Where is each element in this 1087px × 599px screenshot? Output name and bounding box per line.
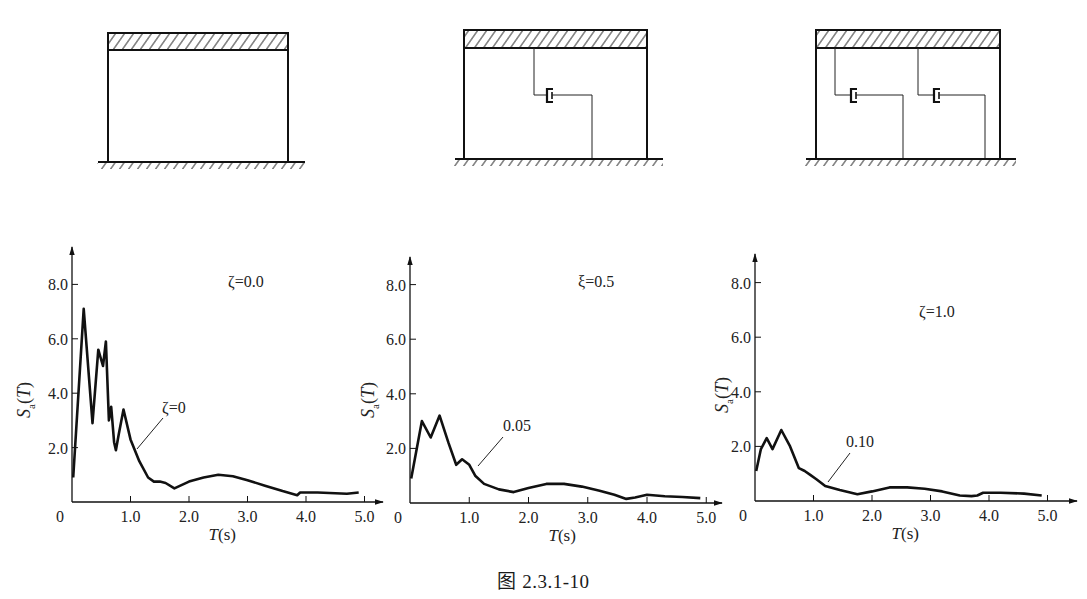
spectrum-curve: [411, 416, 700, 499]
frame-one-damper: [453, 30, 663, 166]
ground-hatch: [97, 162, 305, 169]
x-axis-label: T(s): [548, 526, 575, 545]
x-tick-label: 2.0: [179, 508, 199, 525]
x-tick-label: 5.0: [355, 508, 375, 525]
y-tick-label: 6.0: [731, 329, 751, 346]
y-tick-label: 4.0: [386, 386, 406, 403]
chart-2: 01.02.03.04.05.02.04.06.08.0T(s)Sa(T)ξ=0…: [358, 257, 722, 545]
x-tick-label: 2.0: [519, 509, 539, 526]
y-tick-label: 2.0: [731, 438, 751, 455]
y-axis-label: Sa(T): [712, 377, 735, 413]
damping-ratio-title: ζ=1.0: [919, 303, 955, 321]
leader-line: [137, 418, 163, 449]
figure-canvas: 01.02.03.04.05.02.04.06.08.0T(s)Sa(T)ζ=0…: [0, 0, 1087, 599]
floor-slab: [108, 33, 288, 50]
x-tick-label: 3.0: [921, 507, 941, 524]
leader-line: [478, 437, 503, 466]
y-tick-label: 4.0: [731, 384, 751, 401]
x-tick-label: 1.0: [121, 508, 141, 525]
x-tick-label: 1.0: [804, 507, 824, 524]
y-tick-label: 2.0: [386, 440, 406, 457]
x-tick-label: 4.0: [296, 508, 316, 525]
x-tick-label: 3.0: [238, 508, 258, 525]
x-tick-label: 2.0: [862, 507, 882, 524]
damping-ratio-title: ξ=0.5: [578, 273, 614, 290]
floor-slab: [464, 30, 647, 48]
y-tick-label: 6.0: [386, 331, 406, 348]
spectrum-curve: [73, 309, 359, 495]
y-tick-label: 2.0: [48, 440, 68, 457]
x-axis-label: T(s): [892, 524, 919, 543]
x-tick-label: 5.0: [1038, 507, 1058, 524]
floor-slab: [816, 30, 1000, 48]
x-tick-label: 4.0: [979, 507, 999, 524]
y-axis-label: Sa(T): [14, 382, 37, 418]
damper-brace-2: [918, 48, 985, 159]
curve-label: 0.10: [846, 433, 874, 450]
y-tick-label: 6.0: [48, 331, 68, 348]
curve-label: 0.05: [503, 417, 531, 434]
x-tick-label: 3.0: [578, 509, 598, 526]
y-tick-label: 8.0: [731, 275, 751, 292]
curve-label: ζ=0: [162, 399, 186, 417]
damping-ratio-title: ζ=0.0: [228, 273, 264, 291]
x-tick-label: 1.0: [459, 509, 479, 526]
x-tick-label: 0: [739, 507, 747, 524]
chart-3: 01.02.03.04.05.02.04.06.08.0T(s)Sa(T)ζ=1…: [712, 254, 1077, 543]
x-tick-label: 4.0: [637, 509, 657, 526]
figure-caption: 图 2.3.1-10: [0, 566, 1087, 593]
damper-brace-1: [835, 48, 903, 159]
frame-two-dampers: [805, 30, 1016, 166]
x-axis-label: T(s): [209, 525, 236, 544]
y-tick-label: 4.0: [48, 385, 68, 402]
ground-hatch: [453, 159, 663, 166]
y-tick-label: 8.0: [386, 277, 406, 294]
frame-no-damper: [97, 33, 305, 169]
spectra-charts: 01.02.03.04.05.02.04.06.08.0T(s)Sa(T)ζ=0…: [14, 247, 1077, 545]
damper-brace: [534, 48, 592, 159]
x-tick-label: 0: [394, 509, 402, 526]
leader-line: [828, 453, 850, 482]
x-tick-label: 0: [56, 508, 64, 525]
chart-1: 01.02.03.04.05.02.04.06.08.0T(s)Sa(T)ζ=0…: [14, 247, 383, 544]
ground-hatch: [805, 159, 1016, 166]
y-axis-label: Sa(T): [358, 382, 381, 418]
y-tick-label: 8.0: [48, 276, 68, 293]
spectrum-curve: [756, 430, 1041, 496]
x-tick-label: 5.0: [696, 509, 716, 526]
